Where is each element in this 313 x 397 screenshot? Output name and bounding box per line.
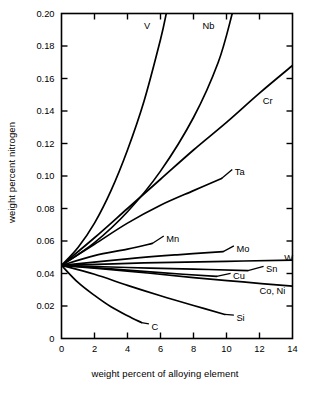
series-label-cu: Cu [233,271,245,281]
series-group [62,14,293,323]
series-curve-c [62,265,142,322]
leader-line-si [225,314,234,315]
x-axis-label: weight percent of alloying element [30,368,300,379]
x-tick-label: 8 [191,344,196,354]
leader-line-ta [222,169,233,178]
series-curve-w [62,260,293,265]
y-tick-label: 0.20 [36,9,54,19]
series-label-mo: Mo [236,244,249,254]
y-tick-label: 0.16 [36,74,54,84]
y-tick-label: 0.06 [36,236,54,246]
x-tick-label: 2 [92,344,97,354]
series-label-w: W [284,253,293,263]
series-label-si: Si [236,313,244,323]
leader-line-mo [223,246,234,252]
series-label-sn: Sn [266,264,277,274]
y-axis-label-container: weight percent nitrogen [0,0,24,345]
y-tick-label: 0.10 [36,171,54,181]
x-tick-label: 12 [254,344,264,354]
series-label-cr: Cr [263,96,273,106]
series-label-v: V [144,21,151,31]
leader-line-mn [152,236,164,243]
leader-line-cu [217,273,231,276]
y-tick-label: 0 [49,334,54,344]
y-tick-label: 0.12 [36,139,54,149]
series-label-ta: Ta [235,167,246,177]
series-label-co-ni: Co, Ni [260,286,286,296]
y-tick-label: 0.02 [36,301,54,311]
y-axis-label: weight percent nitrogen [7,122,18,223]
plot-area: 00.020.040.060.080.100.120.140.160.180.2… [0,0,313,397]
y-tick-label: 0.08 [36,204,54,214]
y-tick-label: 0.04 [36,269,54,279]
nitrogen-solubility-chart: weight percent nitrogen 00.020.040.060.0… [0,0,313,397]
x-tick-label: 14 [287,344,297,354]
y-tick-label: 0.14 [36,106,54,116]
x-tick-label: 0 [59,344,64,354]
x-tick-label: 10 [221,344,231,354]
series-label-nb: Nb [203,21,215,31]
series-curve-ta [62,178,222,265]
leader-line-sn [248,266,264,270]
series-curve-v [62,14,167,266]
x-tick-label: 6 [158,344,163,354]
series-label-c: C [151,322,158,332]
plot-frame [62,14,293,339]
x-tick-label: 4 [125,344,130,354]
series-label-mn: Mn [166,234,179,244]
y-tick-label: 0.18 [36,41,54,51]
leader-line-c [142,323,149,324]
